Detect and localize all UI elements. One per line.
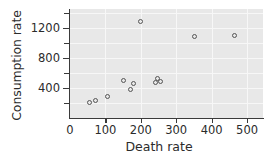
data-point xyxy=(158,79,163,84)
y-tick-major xyxy=(63,28,70,29)
x-tick-label: 400 xyxy=(194,123,230,137)
x-tick-label: 500 xyxy=(229,123,265,137)
x-tick-label: 0 xyxy=(52,123,88,137)
gridline-vertical xyxy=(212,9,213,118)
gridline-vertical xyxy=(105,9,106,118)
x-axis-line xyxy=(69,118,264,119)
gridline-vertical xyxy=(247,9,248,118)
gridline-horizontal xyxy=(70,43,263,44)
gridline-horizontal xyxy=(70,28,263,29)
gridline-horizontal xyxy=(70,58,263,59)
y-tick-major xyxy=(63,58,70,59)
gridline-horizontal xyxy=(70,73,263,74)
data-point xyxy=(232,33,237,38)
data-point xyxy=(138,19,143,24)
data-point xyxy=(105,94,110,99)
plot-panel xyxy=(70,9,263,118)
x-tick-label: 100 xyxy=(87,123,123,137)
x-axis-title: Death rate xyxy=(69,139,249,154)
gridline-vertical xyxy=(141,9,142,118)
y-tick-minor xyxy=(64,103,70,104)
y-tick-label: 400 xyxy=(20,81,60,95)
y-tick-label: 800 xyxy=(20,51,60,65)
gridline-horizontal xyxy=(70,103,263,104)
y-tick-major xyxy=(63,88,70,89)
y-tick-minor xyxy=(64,73,70,74)
scatter-plot-figure: Consumption rate 4008001200 010020030040… xyxy=(0,0,271,162)
data-point xyxy=(192,34,197,39)
y-tick-minor xyxy=(64,43,70,44)
x-tick-label: 300 xyxy=(158,123,194,137)
data-point xyxy=(87,100,92,105)
data-point xyxy=(131,81,136,86)
gridline-vertical xyxy=(176,9,177,118)
gridline-horizontal xyxy=(70,13,263,14)
data-point xyxy=(128,87,133,92)
x-tick-label: 200 xyxy=(123,123,159,137)
y-tick-minor xyxy=(64,13,70,14)
y-tick-label: 1200 xyxy=(20,21,60,35)
gridline-horizontal xyxy=(70,88,263,89)
data-point xyxy=(93,98,98,103)
data-point xyxy=(121,78,126,83)
